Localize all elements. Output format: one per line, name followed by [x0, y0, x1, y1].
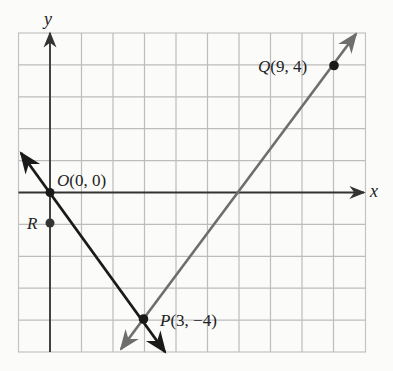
- coordinate-plane: x y O(0, 0) Q(9, 4) P(3, −4) R: [0, 0, 393, 371]
- point-o-label: O(0, 0): [57, 171, 106, 190]
- x-axis-label: x: [369, 181, 378, 201]
- point-r-label: R: [26, 214, 38, 233]
- point-q: [329, 61, 339, 71]
- y-axis-label: y: [42, 9, 52, 29]
- point-p-label: P(3, −4): [159, 311, 217, 330]
- point-p: [139, 314, 149, 324]
- point-q-label: Q(9, 4): [258, 57, 307, 76]
- point-r: [46, 219, 55, 228]
- point-o: [46, 188, 55, 197]
